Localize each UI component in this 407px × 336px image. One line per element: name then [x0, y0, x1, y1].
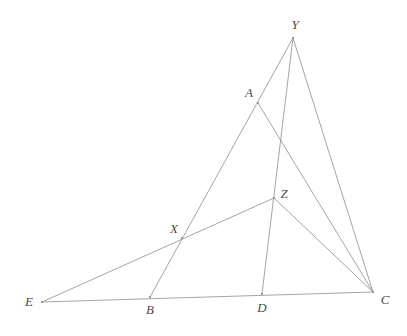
vertex-point-d	[261, 293, 263, 295]
geometry-diagram: YAZXEBDC	[0, 0, 407, 336]
segment-ac	[258, 103, 373, 292]
segments-layer	[42, 38, 373, 302]
vertex-point-c	[372, 291, 374, 293]
vertex-point-e	[41, 301, 43, 303]
vertex-point-x	[181, 237, 183, 239]
vertex-point-y	[292, 37, 294, 39]
geometry-svg	[0, 0, 407, 336]
vertex-point-b	[149, 296, 151, 298]
point-label-x: X	[170, 222, 178, 235]
point-label-y: Y	[291, 18, 298, 31]
point-label-b: B	[146, 303, 154, 316]
point-label-c: C	[381, 293, 390, 306]
point-label-a: A	[245, 86, 253, 99]
cevian-yb	[150, 38, 293, 297]
vertices-layer	[41, 37, 374, 303]
point-label-z: Z	[280, 187, 287, 200]
segment-ez	[42, 198, 274, 302]
point-label-e: E	[25, 295, 33, 308]
base-line-ec	[42, 292, 373, 302]
vertex-point-z	[273, 197, 275, 199]
cevian-yd	[262, 38, 293, 294]
point-label-d: D	[257, 301, 266, 314]
vertex-point-a	[257, 102, 259, 104]
